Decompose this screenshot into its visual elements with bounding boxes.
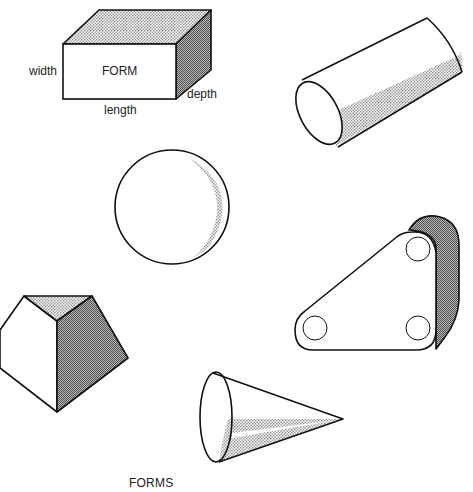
- sphere-shape: [115, 150, 229, 264]
- pyramid-shape: [0, 296, 128, 412]
- sphere-outline: [115, 150, 229, 264]
- box-depth-label: depth: [187, 87, 217, 101]
- forms-diagram: [0, 0, 473, 492]
- plate-hole-top: [406, 237, 430, 261]
- box-shape: [63, 10, 211, 99]
- diagram-caption: FORMS: [129, 476, 173, 490]
- box-length-label: length: [104, 103, 137, 117]
- cone-shape: [200, 372, 343, 462]
- box-width-label: width: [29, 64, 57, 78]
- box-face-label: FORM: [102, 64, 137, 78]
- plate-hole-bottom-right: [406, 316, 430, 340]
- cylinder-shape: [286, 18, 462, 152]
- pyramid-right-face: [57, 296, 128, 412]
- plate-hole-bottom-left: [303, 316, 327, 340]
- plate-shape: [295, 216, 459, 350]
